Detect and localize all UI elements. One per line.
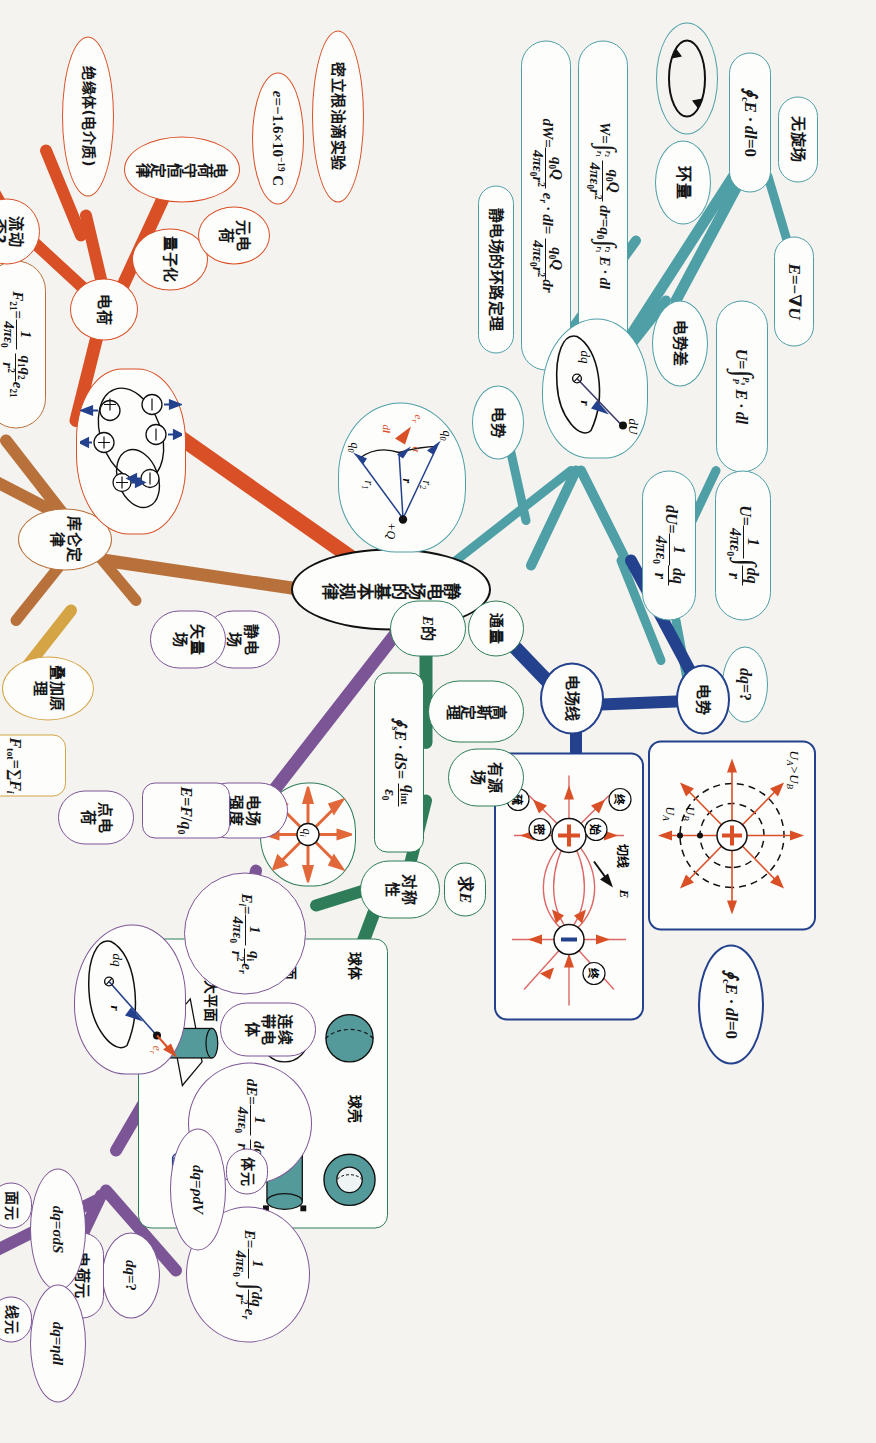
formula: F21=14πε0 q1q2r2e21	[0, 291, 33, 397]
label: 环量	[674, 166, 692, 199]
node-superposition-principle[interactable]: 叠加原理	[2, 656, 94, 720]
fig-equipotential-box: UA>UB UB UA	[648, 740, 816, 930]
formula: ∮cE · dl=0	[721, 969, 742, 1038]
label: 电荷	[96, 294, 113, 325]
node-point-charge[interactable]: 点电荷	[58, 790, 134, 844]
svg-text:E: E	[617, 888, 632, 898]
label: 叠加原理	[31, 662, 65, 714]
svg-text:r: r	[400, 478, 414, 483]
formula: E=F/q0	[177, 786, 196, 834]
node-e-value[interactable]: e=−1.6×10−19 C	[252, 72, 304, 204]
node-dq-question-purple[interactable]: dq=?	[102, 1232, 160, 1318]
svg-text:密: 密	[533, 823, 546, 834]
label: 元电荷	[217, 212, 251, 258]
node-quantization[interactable]: 量子化	[132, 228, 208, 290]
svg-text:α: α	[411, 446, 423, 452]
node-dq-question-teal[interactable]: dq=?	[722, 646, 768, 722]
fig-dq-dU: dq r dU	[542, 318, 648, 458]
label: 电势差	[672, 320, 689, 367]
svg-text:r2: r2	[418, 480, 434, 489]
node-elementary-charge[interactable]: 元电荷	[198, 206, 270, 264]
node-potential-teal[interactable]: 电势	[472, 385, 524, 459]
node-loop-theorem-title[interactable]: 静电场的环路定理	[478, 185, 514, 353]
node-flux-of-E[interactable]: E的	[390, 600, 466, 656]
label: 无旋场	[790, 116, 807, 163]
node-flux-label[interactable]: 通量	[468, 600, 524, 656]
node-F21[interactable]: F21=14πε0 q1q2r2e21	[0, 260, 46, 428]
node-irrotational[interactable]: 无旋场	[778, 96, 818, 182]
svg-text:UB: UB	[681, 806, 697, 821]
node-E-point-charge[interactable]: Ei=14πε0 qir2er	[184, 872, 306, 994]
formula: dq=σdS	[50, 1205, 67, 1253]
node-dq-rho-dV[interactable]: dq=ρdV	[170, 1128, 226, 1250]
svg-text:UA>UB: UA>UB	[785, 750, 802, 789]
fig-circulation-loop	[656, 22, 718, 134]
node-potential-difference[interactable]: 电势差	[652, 300, 708, 386]
node-field-lines[interactable]: 电场线	[540, 662, 604, 734]
node-U-dq[interactable]: U=14πε0∫dqr	[715, 470, 771, 620]
node-volume-element[interactable]: 体元	[226, 1148, 268, 1194]
label: 流动否?	[0, 204, 24, 258]
node-vector-field[interactable]: 矢量场	[150, 610, 226, 668]
svg-text:始: 始	[589, 823, 602, 834]
node-source-field[interactable]: 有源场	[448, 748, 524, 806]
svg-text:球体: 球体	[347, 951, 363, 979]
svg-text:切线: 切线	[615, 843, 630, 867]
mindmap-canvas: 静电场的基本规律 无旋场 ∮cE · dl=0 环量 E=−∇U U=∫P0P …	[0, 0, 876, 1443]
node-find-E[interactable]: 求E	[444, 862, 486, 916]
fig-dq-field: dq r er	[74, 924, 186, 1074]
svg-text:终: 终	[587, 967, 600, 979]
node-continuous-body[interactable]: 连续带电体	[220, 1002, 316, 1056]
node-work-differential[interactable]: dW=q0Q4πε0r2 er · dl= q0Q4πε0r2dr	[521, 40, 571, 370]
svg-text:q0: q0	[346, 442, 362, 452]
mindmap-page: 静电场的基本规律 无旋场 ∮cE · dl=0 环量 E=−∇U U=∫P0P …	[0, 0, 876, 1443]
node-symmetry[interactable]: 对称性	[360, 860, 440, 918]
svg-text:q0: q0	[438, 430, 454, 440]
label: 对称性	[383, 866, 417, 912]
formula: E=14πε0 ∫dqr2er	[231, 1229, 264, 1318]
label: 电场强度	[227, 788, 261, 832]
svg-text:UA: UA	[661, 806, 677, 821]
node-loop-zero-teal[interactable]: ∮cE · dl=0	[729, 52, 771, 192]
formula: dW=q0Q4πε0r2 er · dl= q0Q4πε0r2dr	[528, 118, 563, 292]
node-dU-dq[interactable]: dU=14πε0dqr	[642, 470, 696, 620]
node-millikan[interactable]: 密立根油滴实验	[312, 30, 364, 202]
node-gauss-formula[interactable]: ∮sE · dS= qintε0	[374, 672, 424, 852]
svg-text:球壳: 球壳	[347, 1095, 363, 1123]
node-E-definition[interactable]: E=F/q0	[142, 782, 230, 838]
charge-pairs-icon	[80, 372, 182, 530]
label: 体元	[239, 1157, 255, 1186]
node-insulator[interactable]: 绝缘体(电介质)	[62, 36, 114, 196]
node-charge[interactable]: 电荷	[70, 278, 138, 340]
formula: e=−1.6×10−19 C	[270, 90, 287, 185]
label: 电场线	[564, 675, 581, 722]
node-potential-navy[interactable]: 电势	[676, 664, 730, 734]
svg-text:dq: dq	[578, 350, 593, 364]
svg-text:dl: dl	[381, 424, 393, 434]
node-dq-sigma-dS[interactable]: dq=σdS	[30, 1168, 86, 1290]
svg-text:er: er	[148, 1045, 164, 1054]
fig-work-triangle: q0 q0 +Q r2 r1 r α er dl	[338, 402, 466, 552]
node-gauss-theorem[interactable]: 高斯定理	[428, 680, 524, 742]
node-loop-zero-navy[interactable]: ∮cE · dl=0	[698, 944, 764, 1064]
label: 高斯定理	[445, 703, 507, 720]
label: 静电场的环路定理	[488, 207, 505, 331]
label: 密立根油滴实验	[330, 62, 347, 171]
node-circulation[interactable]: 环量	[655, 140, 711, 224]
node-U-line-integral[interactable]: U=∫P0P E · dl	[716, 300, 768, 472]
node-dq-eta-dl[interactable]: dq=ηdl	[30, 1284, 86, 1402]
node-F-total[interactable]: Ftot=∑Fi	[0, 734, 66, 796]
label: 点电荷	[79, 796, 113, 838]
formula: dU=14πε0dqr	[651, 505, 686, 586]
node-charge-conservation[interactable]: 电荷守恒定律	[124, 136, 240, 202]
field-lines-diagram-icon: 终 始 密 疏 终 切线 E	[498, 757, 640, 1015]
label: 电势	[695, 684, 712, 715]
svg-text:dU: dU	[626, 418, 641, 436]
label: 量子化	[162, 236, 179, 283]
dq-field-diagram-icon: dq r er	[79, 929, 181, 1069]
formula: dq=ηdl	[50, 1321, 67, 1364]
svg-text:r: r	[108, 1005, 123, 1011]
label: 绝缘体(电介质)	[80, 66, 96, 167]
formula: W=∫r2r1 q0Q4πε0r2 dr=q0∫r2r1 E · dl	[585, 121, 620, 288]
node-grad-U[interactable]: E=−∇U	[774, 236, 814, 346]
